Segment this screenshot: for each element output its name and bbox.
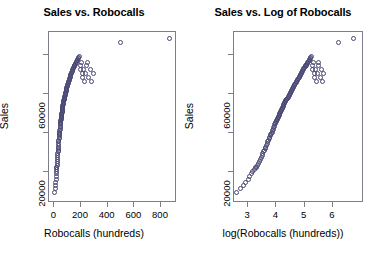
y-axis-tick [43, 54, 48, 55]
plot-frame-left [48, 31, 176, 202]
panel-title-left: Sales vs. Robocalls [0, 6, 188, 18]
data-point [118, 40, 123, 45]
y-axis-title-left: Sales [0, 86, 10, 146]
data-point [314, 79, 319, 84]
x-axis-tick [53, 202, 54, 207]
y-axis-tick [228, 54, 233, 55]
x-axis-tick [107, 202, 108, 207]
x-axis-tick [304, 202, 305, 207]
y-axis-tick-label: 60000 [221, 93, 232, 139]
data-point [336, 40, 341, 45]
panel-title-right: Sales vs. Log of Robocalls [189, 6, 377, 18]
plot-frame-right [233, 31, 363, 202]
data-point [82, 79, 87, 84]
x-axis-tick [80, 202, 81, 207]
x-axis-title-left: Robocalls (hundreds) [0, 227, 188, 239]
data-point [89, 79, 94, 84]
y-axis-tick-label: 60000 [36, 93, 47, 139]
data-point [320, 79, 325, 84]
data-point [77, 54, 82, 59]
x-axis-tick-label: 6 [312, 209, 352, 220]
data-point [309, 54, 314, 59]
x-axis-tick [160, 202, 161, 207]
figure-panel-container: Sales vs. Robocalls 20000600000200400600… [0, 0, 377, 256]
x-axis-tick [133, 202, 134, 207]
x-axis-tick [332, 202, 333, 207]
scatter-panel-sales-vs-robocalls: Sales vs. Robocalls 20000600000200400600… [0, 0, 188, 256]
x-axis-tick [247, 202, 248, 207]
y-axis-title-right: Sales [183, 86, 195, 146]
data-point [79, 60, 84, 65]
x-axis-tick-label: 800 [140, 209, 180, 220]
scatter-panel-sales-vs-log-robocalls: Sales vs. Log of Robocalls 2000060000345… [189, 0, 377, 256]
x-axis-tick [275, 202, 276, 207]
x-axis-title-right: log(Robocalls (hundreds)) [189, 227, 377, 239]
data-point [85, 60, 90, 65]
